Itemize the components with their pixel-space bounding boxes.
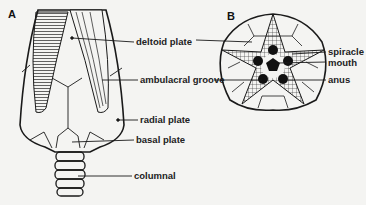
label-spiracle: spiracle [328,46,364,57]
anus [278,74,288,84]
spiracle [253,56,263,66]
label-mouth: mouth [328,57,357,68]
blastoid-top-view [196,14,326,110]
panel-label-b: B [227,10,235,22]
blastoid-diagram: A deltoid plate ambulacral groove radial [0,0,366,205]
spiracle [258,74,268,84]
columnal-stem [55,152,85,196]
label-ambulacral-groove: ambulacral groove [140,74,224,85]
label-anus: anus [328,74,350,85]
spiracle [268,45,278,55]
blastoid-side-view [20,10,138,196]
ambulacrum-left [33,12,68,113]
label-columnal: columnal [134,170,176,181]
label-basal-plate: basal plate [136,134,185,145]
panel-label-a: A [8,8,16,20]
label-deltoid-plate: deltoid plate [136,36,192,47]
spiracle [283,56,293,66]
label-radial-plate: radial plate [140,114,190,125]
